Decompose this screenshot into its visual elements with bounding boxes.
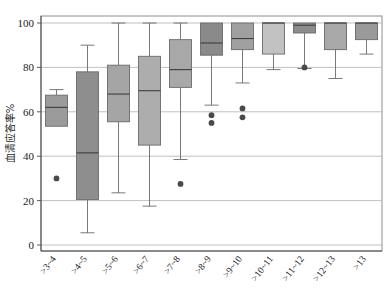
x-tick-label-1: >4~5 xyxy=(69,254,89,276)
box->5~6[interactable] xyxy=(108,65,130,122)
outlier->7~8-0 xyxy=(178,181,184,187)
y-tick-label-80: 80 xyxy=(23,61,35,73)
x-tick-label-2: >5~6 xyxy=(100,254,120,276)
box->4~5[interactable] xyxy=(77,72,99,200)
outlier->11~12-0 xyxy=(302,65,308,71)
chart-canvas: 020406080100血清应答率%>3~4>4~5>5~6>6~7>7~8>8… xyxy=(0,0,390,304)
box->13[interactable] xyxy=(356,23,378,40)
outlier->9~10-0 xyxy=(240,106,246,112)
x-tick-label-10: >13 xyxy=(351,254,368,272)
y-axis-title: 血清应答率% xyxy=(4,104,16,164)
box->3~4[interactable] xyxy=(46,95,68,126)
y-tick-label-60: 60 xyxy=(23,106,35,118)
y-tick-label-40: 40 xyxy=(23,150,35,162)
x-tick-label-8: >11~12 xyxy=(280,254,306,283)
x-tick-label-5: >8~9 xyxy=(193,254,213,276)
x-tick-label-9: >12~13 xyxy=(311,254,337,284)
x-tick-label-7: >10~11 xyxy=(249,254,275,283)
x-tick-label-6: >9~10 xyxy=(221,254,244,280)
outlier->9~10-1 xyxy=(240,114,246,120)
x-tick-label-4: >7~8 xyxy=(162,254,182,276)
outlier->3~4-0 xyxy=(54,176,60,182)
x-tick-label-0: >3~4 xyxy=(38,254,58,276)
box->10~11[interactable] xyxy=(263,23,285,54)
outlier->8~9-0 xyxy=(209,112,215,118)
box-plot-chart: 020406080100血清应答率%>3~4>4~5>5~6>6~7>7~8>8… xyxy=(0,0,390,304)
box->8~9[interactable] xyxy=(201,23,223,55)
box->9~10[interactable] xyxy=(232,23,254,50)
x-tick-label-3: >6~7 xyxy=(131,254,151,276)
box->6~7[interactable] xyxy=(139,56,161,145)
y-tick-label-100: 100 xyxy=(18,17,35,29)
box->7~8[interactable] xyxy=(170,40,192,88)
y-tick-label-20: 20 xyxy=(23,195,35,207)
box->12~13[interactable] xyxy=(325,23,347,50)
outlier->8~9-1 xyxy=(209,120,215,126)
y-tick-label-0: 0 xyxy=(29,239,35,251)
box->11~12[interactable] xyxy=(294,23,316,33)
